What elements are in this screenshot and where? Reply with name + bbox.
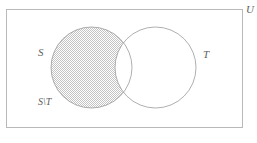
venn-diagram-figure: U S T S\T	[0, 0, 257, 143]
shaded-difference-region	[0, 0, 257, 143]
universe-label: U	[246, 4, 254, 15]
set-difference-label: S\T	[38, 97, 51, 107]
caption-strip	[0, 136, 257, 143]
set-s-label: S	[38, 47, 44, 58]
set-t-label: T	[203, 49, 209, 60]
venn-circles-svg	[0, 0, 257, 143]
